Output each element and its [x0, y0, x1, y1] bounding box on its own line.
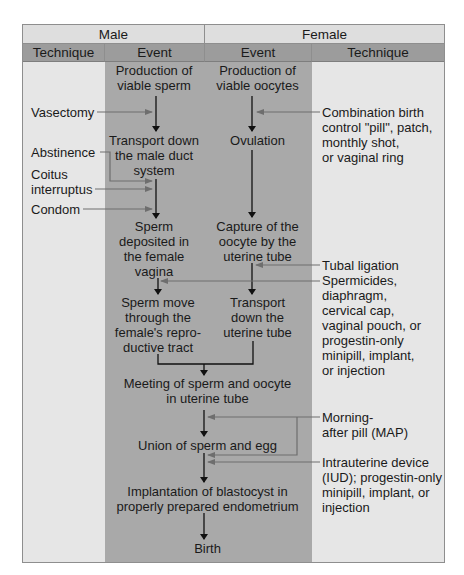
flow-arrows: [0, 0, 464, 575]
technique-arrows: [83, 112, 320, 462]
event-flow-arrows: [156, 96, 253, 539]
